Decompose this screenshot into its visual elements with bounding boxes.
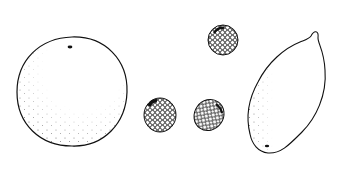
berry-middle bbox=[188, 94, 230, 137]
berry-top bbox=[208, 25, 238, 55]
fruit-illustration bbox=[0, 0, 340, 177]
berry-left bbox=[144, 98, 176, 132]
lemon bbox=[248, 32, 325, 153]
orange bbox=[17, 37, 127, 147]
illustration-svg bbox=[0, 0, 340, 177]
